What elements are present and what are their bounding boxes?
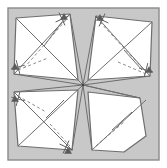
origami-crease-pattern-figure: Origami crease pattern diagram Square fr… [0, 0, 167, 168]
center-point [82, 84, 84, 86]
bottom-right-flap [88, 92, 146, 152]
crease-pattern-canvas [0, 0, 167, 168]
top-right-flap [88, 16, 152, 80]
